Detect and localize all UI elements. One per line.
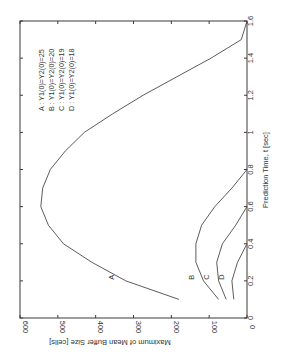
y-tick-label: 200 xyxy=(172,321,181,334)
curve-label-d: D xyxy=(217,274,226,280)
curve-d xyxy=(232,244,247,300)
y-tick-label: 500 xyxy=(58,321,67,334)
x-tick-label: 1 xyxy=(246,130,255,134)
y-axis-label: Maximum of Mean Buffer Size [cells] xyxy=(49,338,171,347)
rotated-line-chart: 0100200300400500600 00.20.40.60.811.21.4… xyxy=(0,0,283,364)
curve-label-a: A xyxy=(107,275,116,280)
curve-label-b: B xyxy=(187,275,196,280)
x-axis-label: Prediction Time, t [sec] xyxy=(261,132,270,208)
x-tick-label: 0.2 xyxy=(246,276,255,286)
x-tick-label: 0.4 xyxy=(246,239,255,249)
y-tick-label: 400 xyxy=(96,321,105,334)
x-tick-label: 0.6 xyxy=(246,201,255,211)
curve-labels: ABCD xyxy=(107,274,226,280)
x-tick-label: 1.4 xyxy=(246,53,255,63)
legend-entry: D : Y1(0)=Y2(0)=18 xyxy=(67,48,76,111)
y-tick-label: 300 xyxy=(134,321,143,334)
legend-entry: B : Y1(0)=Y2(0)=20 xyxy=(47,49,56,111)
y-tick-label: 0 xyxy=(248,325,257,329)
x-tick-label: 0.8 xyxy=(246,164,255,174)
x-tick-label: 1.6 xyxy=(246,16,255,26)
legend-entry: A : Y1(0)=Y2(0)=25 xyxy=(37,49,46,111)
x-tick-label: 0 xyxy=(246,316,255,320)
legend-entry: C : Y1(0)=Y2(0)=19 xyxy=(57,48,66,111)
x-tick-label: 1.2 xyxy=(246,90,255,100)
y-tick-label: 100 xyxy=(210,321,219,334)
legend: A : Y1(0)=Y2(0)=25B : Y1(0)=Y2(0)=20C : … xyxy=(37,48,76,111)
y-tick-label: 600 xyxy=(21,321,30,334)
curve-label-c: C xyxy=(202,274,211,280)
